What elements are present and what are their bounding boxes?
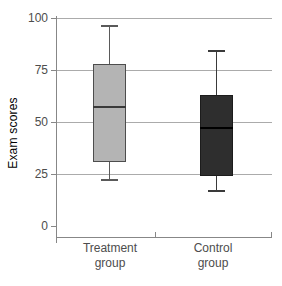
- whisker-cap-min-treatment-group: [101, 179, 118, 181]
- y-tick-label-25: 25: [18, 166, 48, 182]
- x-category-label-line: Control: [168, 241, 258, 256]
- gridline-50: [56, 122, 272, 123]
- y-tick-label-0: 0: [18, 218, 48, 234]
- y-tick-75: [51, 70, 56, 71]
- x-category-label-line: group: [65, 256, 155, 271]
- y-tick-label-50: 50: [18, 114, 48, 130]
- y-axis-line: [56, 16, 57, 243]
- whisker-lower-control-group: [216, 176, 217, 191]
- whisker-lower-treatment-group: [109, 162, 110, 181]
- whisker-upper-treatment-group: [109, 26, 110, 63]
- median-line-treatment-group: [93, 106, 126, 108]
- box-control-group: [200, 95, 233, 176]
- x-category-label-control-group: Controlgroup: [168, 241, 258, 271]
- y-tick-50: [51, 122, 56, 123]
- x-category-label-line: Treatment: [65, 241, 155, 256]
- boxplot-figure: Exam scores 0255075100TreatmentgroupCont…: [0, 0, 282, 286]
- x-category-label-treatment-group: Treatmentgroup: [65, 241, 155, 271]
- y-tick-100: [51, 18, 56, 19]
- y-tick-0: [51, 226, 56, 227]
- median-line-control-group: [200, 127, 233, 129]
- box-treatment-group: [93, 64, 126, 162]
- y-tick-label-100: 100: [18, 10, 48, 26]
- whisker-upper-control-group: [216, 51, 217, 95]
- gridline-100: [56, 18, 272, 19]
- whisker-cap-min-control-group: [208, 190, 225, 192]
- plot-area: 0255075100TreatmentgroupControlgroup: [0, 0, 282, 286]
- y-tick-label-75: 75: [18, 62, 48, 78]
- gridline-75: [56, 70, 272, 71]
- x-category-label-line: group: [168, 256, 258, 271]
- y-tick-25: [51, 174, 56, 175]
- x-axis-end-tick: [271, 232, 272, 237]
- x-axis-divider-tick: [155, 232, 156, 237]
- whisker-cap-max-control-group: [208, 50, 225, 52]
- gridline-25: [56, 174, 272, 175]
- whisker-cap-max-treatment-group: [101, 25, 118, 27]
- x-axis-line: [56, 237, 272, 238]
